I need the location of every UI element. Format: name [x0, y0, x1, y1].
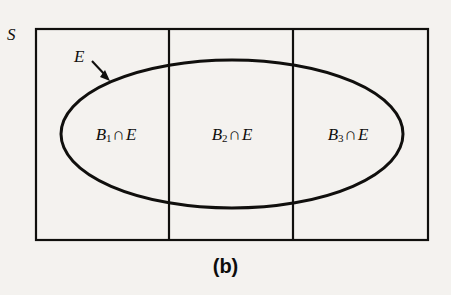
region-1-index: 1 [106, 132, 112, 144]
region-2-base: B [212, 125, 222, 144]
region-label-b2-intersect-e: B2∩E [166, 125, 298, 145]
region-2-index: 2 [222, 132, 228, 144]
region-3-operator: ∩ [344, 125, 358, 144]
region-label-b1-intersect-e: B1∩E [50, 125, 182, 145]
figure-caption: (b) [0, 255, 451, 278]
region-1-base: B [96, 125, 106, 144]
venn-diagram-figure [0, 0, 451, 295]
region-label-b3-intersect-e: B3∩E [282, 125, 414, 145]
region-1-operator: ∩ [112, 125, 126, 144]
event-pointer-arrow [92, 61, 110, 81]
event-label: E [74, 47, 84, 67]
sample-space-label: S [7, 25, 16, 45]
region-3-index: 3 [338, 132, 344, 144]
region-3-base: B [328, 125, 338, 144]
region-2-other: E [242, 125, 252, 144]
region-2-operator: ∩ [228, 125, 242, 144]
region-3-other: E [358, 125, 368, 144]
region-1-other: E [126, 125, 136, 144]
